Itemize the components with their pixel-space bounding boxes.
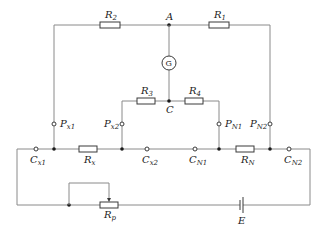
px2-label: Px2 bbox=[103, 118, 120, 131]
resistor-rx: Rx bbox=[79, 146, 97, 167]
potential-terminal-pn2: PN2 bbox=[249, 118, 272, 149]
resistor-r2: R2 bbox=[100, 9, 120, 28]
galvanometer: G bbox=[162, 56, 176, 70]
potential-terminal-px2: Px2 bbox=[103, 118, 124, 149]
rheostat-rp-label: Rp bbox=[103, 209, 117, 222]
cx2-label: Cx2 bbox=[142, 154, 159, 167]
wiper-arrow-icon bbox=[107, 198, 111, 202]
resistor-r4-label: R4 bbox=[188, 85, 201, 98]
node-c: C bbox=[166, 99, 174, 115]
galvanometer-label: G bbox=[166, 59, 172, 68]
current-terminal-cn2: CN2 bbox=[284, 147, 303, 167]
pn1-label: PN1 bbox=[224, 118, 242, 131]
double-bridge-circuit-diagram: R2 R1 A G R3 R4 C Px1 bbox=[0, 0, 316, 228]
supply-loop bbox=[17, 183, 310, 207]
resistor-rn: RN bbox=[236, 146, 256, 167]
node-a-label: A bbox=[165, 11, 173, 22]
current-terminal-cx1: Cx1 bbox=[30, 147, 46, 167]
node-c-label: C bbox=[166, 104, 174, 115]
resistor-r4: R4 bbox=[185, 85, 203, 104]
cn2-label: CN2 bbox=[284, 154, 303, 167]
resistor-r3-label: R3 bbox=[140, 85, 154, 98]
potential-terminal-pn1: PN1 bbox=[217, 118, 242, 149]
battery-e: E bbox=[237, 197, 246, 226]
main-current-line bbox=[17, 147, 310, 205]
cn1-label: CN1 bbox=[189, 154, 207, 167]
node-a: A bbox=[165, 11, 173, 27]
battery-e-label: E bbox=[237, 215, 246, 226]
resistor-r1: R1 bbox=[209, 9, 229, 28]
top-arm bbox=[54, 25, 270, 122]
resistor-r3: R3 bbox=[137, 85, 155, 104]
rheostat-rp: Rp bbox=[100, 198, 118, 222]
resistor-r2-label: R2 bbox=[104, 9, 118, 22]
resistor-rx-label: Rx bbox=[83, 154, 96, 167]
potential-terminal-px1: Px1 bbox=[52, 118, 75, 149]
current-terminal-cx2: Cx2 bbox=[142, 147, 159, 167]
px1-label: Px1 bbox=[59, 118, 75, 131]
pn2-label: PN2 bbox=[249, 118, 268, 131]
resistor-r1-label: R1 bbox=[213, 9, 226, 22]
current-terminal-cn1: CN1 bbox=[189, 147, 207, 167]
cx1-label: Cx1 bbox=[30, 154, 46, 167]
resistor-rn-label: RN bbox=[240, 154, 256, 167]
